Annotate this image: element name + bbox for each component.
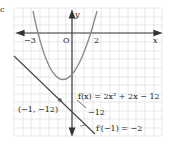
tick-2: 2 — [94, 36, 99, 45]
problem-marker: c — [0, 5, 5, 14]
y-axis-label: y — [74, 10, 80, 19]
y-axis-up-arrow-icon — [70, 11, 75, 18]
origin-label: O — [63, 36, 70, 45]
function-label: f(x) = 2x² + 2x − 12 — [78, 92, 160, 101]
x-axis-right-arrow-icon — [154, 31, 161, 36]
yint-label: −12 — [88, 108, 105, 117]
chart: c −3 O 2 x y f(x) = 2x² + 2x − 12 (−1, −… — [0, 0, 171, 146]
yint-pointer — [77, 100, 86, 108]
y-axis-down-arrow-icon — [70, 128, 75, 135]
tick-neg3: −3 — [24, 36, 36, 45]
x-axis-left-arrow-icon — [17, 31, 24, 36]
point-label: (−1, −12) — [18, 105, 58, 114]
parabola-curve — [33, 11, 97, 80]
derivative-label: f′(−1) = −2 — [96, 124, 142, 133]
x-axis-label: x — [153, 36, 158, 45]
tangent-point — [58, 98, 62, 102]
